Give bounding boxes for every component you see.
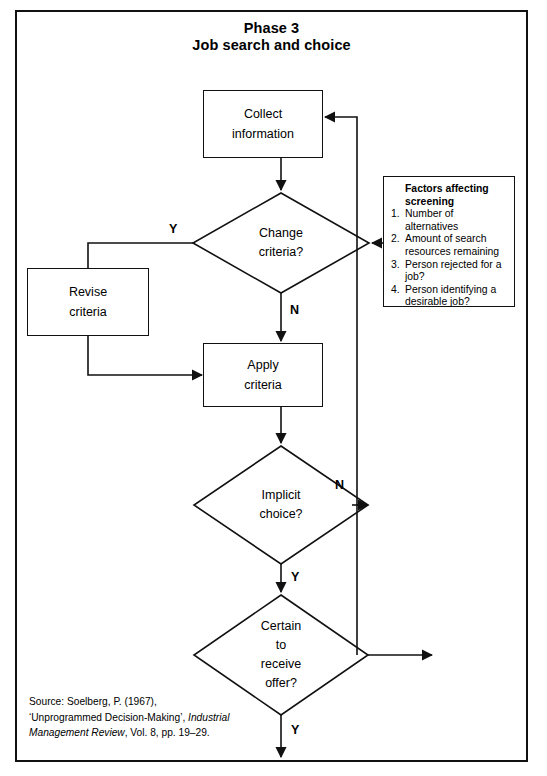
implicit-choice-diamond (194, 446, 368, 564)
edge-label-implicit-yes: Y (291, 570, 299, 584)
factors-item-number: 3. (391, 259, 400, 272)
edge-label-implicit-no: N (335, 478, 344, 492)
factors-list-item: 4. Person identifying a desirable job? (391, 284, 509, 309)
factors-list-item: 1. Number of alternatives (391, 208, 509, 233)
edge-feedback-trunk (325, 117, 357, 655)
node-revise-criteria[interactable]: Revise criteria (27, 268, 149, 336)
factors-heading-line-2: screening (405, 196, 509, 209)
node-apply-criteria[interactable]: Apply criteria (203, 343, 323, 407)
source-line-2-italic: Industrial (188, 712, 229, 723)
node-revise-line-2: criteria (69, 302, 107, 322)
source-line-2: ‘Unprogrammed Decision-Making’, Industri… (29, 710, 279, 726)
factors-list-item: 2. Amount of search resources remaining (391, 233, 509, 258)
edge-label-change-no: N (290, 303, 299, 317)
source-line-1: Source: Soelberg, P. (1967), (29, 694, 279, 710)
node-apply-line-2: criteria (244, 375, 282, 395)
source-line-2-text: ‘Unprogrammed Decision-Making’, (29, 712, 188, 723)
change-criteria-diamond (193, 193, 369, 293)
factors-item-number: 1. (391, 208, 400, 221)
source-line-3-italic: Management Review (29, 727, 125, 738)
edge-revise-to-apply (88, 336, 202, 375)
factors-heading-line-1: Factors affecting (405, 183, 509, 196)
factors-list-item: 3. Person rejected for a job? (391, 259, 509, 284)
edge-label-change-yes: Y (169, 222, 177, 236)
edge-label-certain-yes: Y (291, 723, 299, 737)
factors-item-number: 4. (391, 284, 400, 297)
source-line-3-text: , Vol. 8, pp. 19–29. (125, 727, 210, 738)
node-collect-line-2: information (232, 124, 294, 144)
factors-item-text: Person identifying a desirable job? (405, 284, 496, 308)
edge-change-yes-to-revise (88, 243, 193, 268)
factors-item-text: Person rejected for a job? (405, 259, 501, 283)
factors-item-text: Number of alternatives (405, 208, 458, 232)
factors-item-text: Amount of search resources remaining (405, 233, 499, 257)
node-collect-information[interactable]: Collect information (203, 90, 323, 158)
flowchart-page: Phase 3 Job search and choice (0, 0, 547, 776)
factors-item-number: 2. (391, 233, 400, 246)
source-citation: Source: Soelberg, P. (1967), ‘Unprogramm… (29, 694, 279, 741)
node-apply-line-1: Apply (247, 355, 278, 375)
factors-affecting-screening-box: Factors affecting screening 1. Number of… (383, 176, 515, 307)
factors-list: 1. Number of alternatives 2. Amount of s… (391, 208, 509, 309)
node-revise-line-1: Revise (69, 282, 107, 302)
node-collect-line-1: Collect (244, 104, 282, 124)
source-line-3: Management Review, Vol. 8, pp. 19–29. (29, 725, 279, 741)
